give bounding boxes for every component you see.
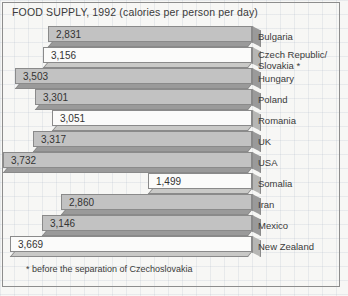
bar[interactable]: 3,503	[15, 68, 252, 84]
category-label-line1: Iran	[258, 199, 274, 210]
category-label-line1: USA	[258, 157, 278, 168]
bar[interactable]: 3,669	[10, 236, 252, 252]
category-label: Hungary	[258, 74, 294, 85]
footnote-marker-icon: *	[26, 264, 30, 274]
category-label-column: BulgariaCzech Republic/Slovakia *Hungary…	[258, 26, 346, 258]
bar-group[interactable]: 1,499	[148, 173, 252, 194]
bar-group[interactable]: 3,146	[42, 215, 252, 236]
bar-group[interactable]: 3,301	[35, 89, 252, 110]
bar[interactable]: 3,146	[42, 215, 252, 231]
category-label: New Zealand	[258, 242, 314, 253]
category-label: Romania	[258, 116, 296, 127]
category-label: Iran	[258, 200, 274, 211]
chart-title: FOOD SUPPLY, 1992 (calories per person p…	[12, 6, 258, 18]
bar[interactable]: 2,831	[48, 26, 252, 42]
bar-value-label: 2,831	[56, 28, 81, 42]
bar-group[interactable]: 3,317	[33, 131, 252, 152]
category-label-line1: Poland	[258, 94, 288, 105]
category-label-line1: Romania	[258, 115, 296, 126]
category-label-line1: Hungary	[258, 73, 294, 84]
category-label: USA	[258, 158, 278, 169]
bar[interactable]: 3,301	[35, 89, 252, 105]
category-label-line1: Bulgaria	[258, 31, 293, 42]
bar-value-label: 3,156	[51, 49, 76, 63]
bar-value-label: 3,669	[18, 238, 43, 252]
category-label-line1: New Zealand	[258, 241, 314, 252]
bar-value-label: 3,051	[60, 112, 85, 126]
category-label: Bulgaria	[258, 32, 293, 43]
category-label-line1: Mexico	[258, 220, 288, 231]
chart-root: FOOD SUPPLY, 1992 (calories per person p…	[0, 0, 348, 296]
footnote-text: before the separation of Czechoslovakia	[32, 264, 193, 274]
bar-group[interactable]: 3,503	[15, 68, 252, 89]
bar-value-label: 3,317	[41, 133, 66, 147]
bar-value-label: 3,503	[23, 70, 48, 84]
bar-value-label: 1,499	[156, 175, 181, 189]
bar-group[interactable]: 2,860	[61, 194, 252, 215]
bar[interactable]: 3,732	[3, 152, 252, 168]
bar-value-label: 3,732	[11, 154, 36, 168]
bar[interactable]: 3,051	[52, 110, 252, 126]
bar-value-label: 3,146	[50, 217, 75, 231]
bar[interactable]: 1,499	[148, 173, 252, 189]
bar[interactable]: 3,317	[33, 131, 252, 147]
category-label-line1: UK	[258, 136, 271, 147]
category-label-line2: Slovakia *	[258, 61, 327, 72]
bar-value-label: 3,301	[43, 91, 68, 105]
bar[interactable]: 3,156	[43, 47, 252, 63]
category-label: Somalia	[258, 179, 292, 190]
bar-group[interactable]: 2,831	[48, 26, 252, 47]
bar-group[interactable]: 3,732	[3, 152, 252, 173]
category-label-line1: Somalia	[258, 178, 292, 189]
bar-group[interactable]: 3,156	[43, 47, 252, 68]
category-label: Czech Republic/Slovakia *	[258, 50, 327, 71]
bar-group[interactable]: 3,051	[52, 110, 252, 131]
bar-group[interactable]: 3,669	[10, 236, 252, 257]
bar[interactable]: 2,860	[61, 194, 252, 210]
category-label: UK	[258, 137, 271, 148]
bar-value-label: 2,860	[69, 196, 94, 210]
bar-3d-bevel	[10, 252, 252, 257]
category-label: Mexico	[258, 221, 288, 232]
category-label-line1: Czech Republic/	[258, 49, 327, 60]
category-label: Poland	[258, 95, 288, 106]
chart-footnote: * before the separation of Czechoslovaki…	[26, 264, 193, 274]
